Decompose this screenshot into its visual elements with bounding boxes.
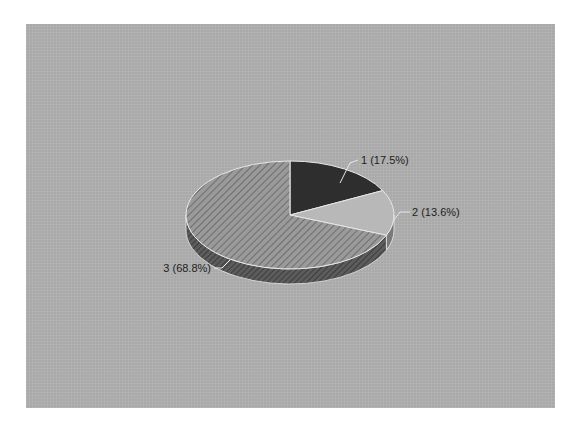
slice-label-2: 2 (13.6%)	[412, 206, 460, 218]
slice-label-3: 3 (68.8%)	[163, 262, 211, 274]
leader-line-2	[394, 212, 410, 220]
slice-label-1: 1 (17.5%)	[361, 154, 409, 166]
pie-top	[186, 161, 394, 269]
pie-chart: 1 (17.5%)2 (13.6%)3 (68.8%)	[0, 0, 574, 427]
